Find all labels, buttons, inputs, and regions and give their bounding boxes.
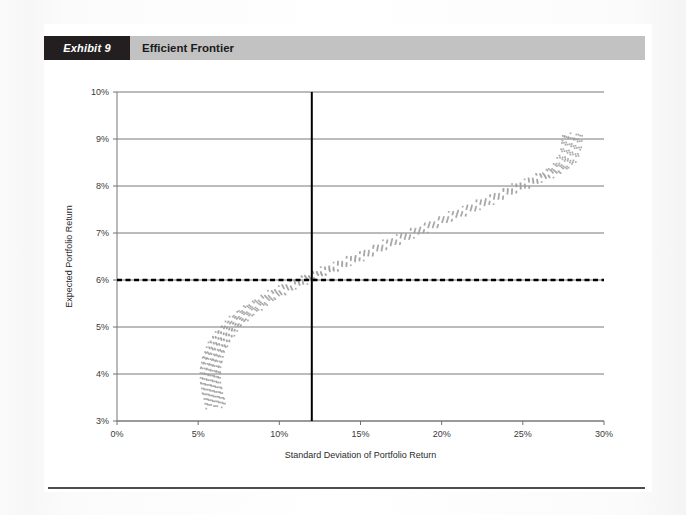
frontier-point — [223, 332, 225, 334]
frontier-point — [215, 354, 217, 356]
frontier-point — [216, 405, 218, 407]
frontier-point — [221, 325, 223, 327]
frontier-point — [215, 401, 217, 403]
frontier-point — [204, 351, 206, 353]
frontier-point — [214, 365, 216, 367]
frontier-point — [577, 153, 579, 155]
x-axis-title: Standard Deviation of Portfolio Return — [285, 450, 437, 460]
frontier-point — [205, 398, 207, 400]
frontier-point — [210, 379, 212, 381]
frontier-point — [221, 407, 223, 409]
frontier-point — [448, 211, 450, 213]
frontier-point — [203, 388, 205, 390]
frontier-point — [451, 219, 453, 221]
frontier-point — [213, 354, 215, 356]
frontier-point — [216, 381, 218, 383]
frontier-point — [382, 239, 384, 241]
frontier-point — [328, 266, 330, 268]
frontier-point — [267, 290, 269, 292]
frontier-point — [553, 177, 555, 179]
frontier-point — [218, 343, 220, 345]
frontier-point — [415, 228, 417, 230]
frontier-point — [566, 168, 568, 170]
frontier-point — [213, 342, 215, 344]
frontier-point — [273, 297, 275, 299]
frontier-point — [511, 183, 513, 185]
frontier-point — [563, 166, 565, 168]
frontier-point — [572, 154, 574, 156]
frontier-point — [355, 255, 357, 257]
frontier-point — [228, 334, 230, 336]
frontier-point — [231, 335, 233, 337]
frontier-point — [548, 168, 550, 170]
frontier-point — [535, 173, 537, 175]
y-tick-label: 8% — [96, 181, 109, 191]
frontier-point — [556, 165, 558, 167]
frontier-point — [217, 376, 219, 378]
frontier-point — [214, 385, 216, 387]
frontier-point — [578, 147, 580, 149]
frontier-point — [368, 250, 370, 252]
x-tick-label: 5% — [192, 429, 205, 439]
frontier-point — [205, 408, 207, 410]
x-tick-label: 30% — [595, 429, 613, 439]
frontier-point — [207, 389, 209, 391]
frontier-point — [423, 229, 425, 231]
objective-lines — [117, 92, 604, 421]
frontier-point — [222, 356, 224, 358]
frontier-point — [204, 403, 206, 405]
frontier-point — [405, 233, 407, 235]
frontier-point — [564, 135, 566, 137]
frontier-point — [233, 322, 235, 324]
frontier-point — [556, 157, 558, 159]
frontier-point — [548, 175, 550, 177]
frontier-point — [208, 342, 210, 344]
frontier-point — [259, 304, 261, 306]
frontier-point — [231, 321, 233, 323]
frontier-point — [438, 216, 440, 218]
frontier-point — [207, 363, 209, 365]
y-tick-label: 7% — [96, 228, 109, 238]
frontier-point — [221, 397, 223, 399]
frontier-point — [206, 403, 208, 405]
frontier-point — [572, 151, 574, 153]
frontier-point — [240, 317, 242, 319]
frontier-point — [570, 145, 572, 147]
frontier-point — [320, 266, 322, 268]
frontier-point — [485, 198, 487, 200]
frontier-point — [228, 321, 230, 323]
frontier-point — [337, 261, 339, 263]
frontier-point — [480, 199, 482, 201]
frontier-point — [208, 394, 210, 396]
frontier-point — [489, 201, 491, 203]
frontier-point — [234, 335, 236, 337]
frontier-point — [377, 245, 379, 247]
frontier-point — [539, 173, 541, 175]
frontier-point — [220, 337, 222, 339]
frontier-point — [567, 144, 569, 146]
frontier-point — [211, 375, 213, 377]
frontier-point — [443, 216, 445, 218]
frontier-point — [579, 140, 581, 142]
frontier-point — [206, 394, 208, 396]
frontier-point — [566, 136, 568, 138]
frontier-point — [546, 169, 548, 171]
y-tick-label: 4% — [96, 369, 109, 379]
frontier-point — [313, 277, 315, 279]
frontier-point — [200, 367, 202, 369]
frontier-point — [570, 132, 572, 134]
frontier-point — [541, 181, 543, 183]
frontier-point — [238, 323, 240, 325]
frontier-point — [293, 279, 295, 281]
frontier-point — [565, 142, 567, 144]
frontier-point — [209, 389, 211, 391]
frontier-point — [575, 155, 577, 157]
frontier-point — [235, 323, 237, 325]
frontier-point — [295, 288, 297, 290]
frontier-point — [244, 312, 246, 314]
frontier-point — [359, 251, 361, 253]
frontier-point — [350, 264, 352, 266]
frontier-point — [218, 365, 220, 367]
frontier-point — [210, 369, 212, 371]
frontier-point — [220, 382, 222, 384]
